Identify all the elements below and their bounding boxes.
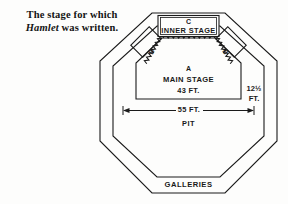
- main-stage-dimension: 43 FT.: [177, 86, 199, 95]
- pit-width-dimension: 55 FT.: [123, 105, 254, 115]
- theatre-plan-diagram: C INNER STAGE B B A MAIN STAGE 43 FT. 55…: [0, 0, 288, 204]
- main-stage-letter: A: [186, 65, 191, 72]
- figure-page: The stage for which Hamlet was written. …: [0, 0, 288, 204]
- pit-label: PIT: [182, 119, 195, 128]
- pit-dimension-arrow-left: [123, 108, 130, 113]
- main-stage-label: MAIN STAGE: [163, 75, 214, 84]
- outer-octagon: [100, 13, 277, 193]
- pit-width-label: 55 FT.: [178, 105, 200, 114]
- pit-dimension-arrow-right: [248, 108, 255, 113]
- galleries-label: GALLERIES: [165, 180, 213, 189]
- inner-stage-label: INNER STAGE: [161, 26, 215, 35]
- depth-dimension-value: 12½: [247, 84, 262, 93]
- inner-octagon: [113, 26, 264, 177]
- inner-stage-letter: C: [186, 18, 191, 25]
- depth-dimension-unit: FT.: [249, 94, 260, 103]
